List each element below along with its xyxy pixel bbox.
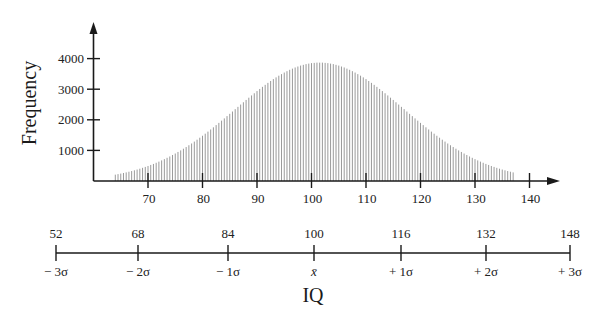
y-tick-label: 2000 [58, 112, 84, 127]
x-tick-label: 100 [303, 191, 323, 206]
histogram-bars [115, 63, 513, 181]
x-axis-arrow-icon [547, 177, 560, 185]
x-tick-label: 110 [357, 191, 376, 206]
sigma-label: − 1σ [216, 264, 240, 279]
x-tick-label: 120 [412, 191, 432, 206]
x-tick-label: 70 [143, 191, 156, 206]
sigma-value-label: 100 [304, 226, 324, 241]
sigma-value-label: 148 [560, 226, 580, 241]
y-tick-label: 4000 [58, 51, 84, 66]
sigma-value-label: 68 [132, 226, 145, 241]
sigma-label: + 2σ [474, 264, 498, 279]
y-axis-arrow-icon [90, 22, 98, 34]
sigma-label: + 3σ [558, 264, 582, 279]
y-axis-title: Frequency [18, 61, 41, 145]
x-tick-label: 140 [521, 191, 541, 206]
x-axis-title: IQ [302, 284, 324, 306]
iq-frequency-chart: 1000200030004000 708090100110120130140 F… [0, 0, 606, 324]
sigma-label: + 1σ [389, 264, 413, 279]
x-tick-label: 80 [197, 191, 210, 206]
y-tick-label: 3000 [58, 82, 84, 97]
sigma-value-label: 132 [476, 226, 496, 241]
sigma-label: − 2σ [126, 264, 150, 279]
x-tick-label: 130 [466, 191, 486, 206]
sigma-label: − 3σ [44, 264, 68, 279]
sigma-value-label: 84 [222, 226, 236, 241]
y-tick-label: 1000 [58, 143, 84, 158]
sigma-value-label: 116 [391, 226, 411, 241]
sigma-value-label: 52 [50, 226, 63, 241]
sigma-label: x̄ [310, 264, 317, 279]
x-tick-label: 90 [252, 191, 265, 206]
